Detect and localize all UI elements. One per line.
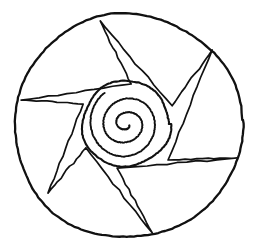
mandala-artwork: Spiral Mandala Line Drawing (0, 0, 258, 250)
